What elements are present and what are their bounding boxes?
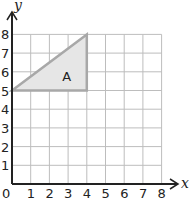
y-tick-label: 3 [1,121,9,136]
x-tick-label: 8 [158,186,166,200]
triangle-a-label: A [62,69,71,84]
y-tick-label: 6 [1,65,9,80]
x-tick-label: 7 [139,186,147,200]
x-tick-label: 6 [120,186,128,200]
x-tick-label: 4 [83,186,91,200]
coordinate-grid: A x y 0 12345678 12345678 [0,0,189,200]
y-tick-labels: 12345678 [1,27,9,173]
origin-label: 0 [2,186,10,200]
x-axis-label: x [181,175,189,191]
x-tick-label: 5 [102,186,110,200]
y-tick-label: 8 [1,27,9,42]
x-tick-label: 1 [27,186,35,200]
y-axis-label: y [13,0,23,13]
y-tick-label: 2 [1,140,9,155]
y-tick-label: 5 [1,84,9,99]
axes [7,12,178,189]
x-tick-labels: 12345678 [27,186,166,200]
y-tick-label: 4 [1,102,9,117]
x-tick-label: 3 [64,186,72,200]
y-tick-label: 1 [1,158,9,173]
y-tick-label: 7 [1,46,9,61]
x-tick-label: 2 [45,186,53,200]
